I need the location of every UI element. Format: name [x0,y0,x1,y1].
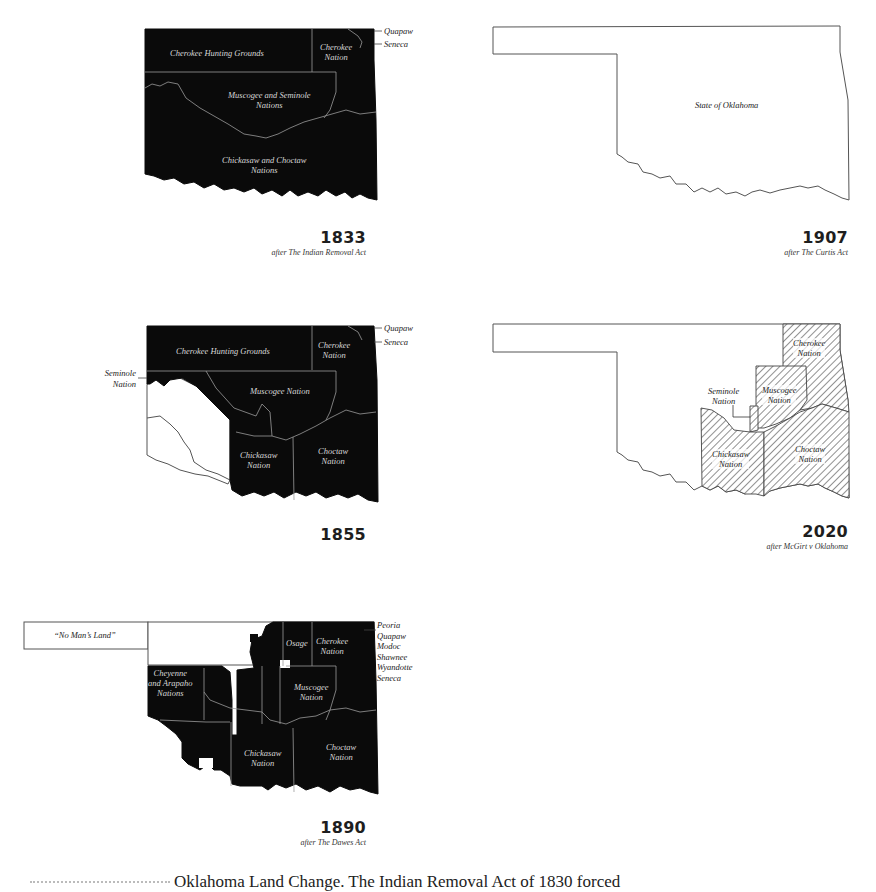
side-label-wyandotte: Wyandotte [377,662,413,673]
label-muscogee-nation: Muscogee Nation [294,682,328,702]
label-line: Cherokee [793,338,825,348]
label-seminole-nation: Seminole Nation [708,386,739,406]
label-line: Nation [708,396,739,406]
side-label-modoc: Modoc [377,641,413,652]
label-line: Nation [795,454,825,464]
label-line: Chickasaw [244,748,281,758]
label-chickasaw-nation: Chickasaw Nation [244,748,281,768]
label-line: Choctaw [326,742,356,752]
map-1890 [0,0,440,850]
label-cherokee-nation: Cherokee Nation [316,636,348,656]
label-line: Nation [712,459,749,469]
label-line: Seminole [708,386,739,396]
label-line: Chickasaw [712,449,749,459]
label-line: Muscogee [294,682,328,692]
side-label-peoria: Peoria [377,620,413,631]
caption-text: Oklahoma Land Change. The Indian Removal… [174,872,620,891]
side-label-seneca: Seneca [377,673,413,684]
caption-figure-number-placeholder [30,881,170,885]
label-choctaw-nation: Choctaw Nation [326,742,356,762]
label-osage: Osage [286,638,308,648]
label-no-mans-land: “No Man’s Land” [54,630,116,640]
subtitle-1890: after The Dawes Act [246,838,366,847]
label-line: Muscogee [762,385,796,395]
subtitle-2020: after McGirt v Oklahoma [728,542,848,551]
label-line: Nations [148,688,192,698]
side-label-quapaw: Quapaw [377,631,413,642]
map-panel-1890: “No Man’s Land” Osage Cherokee Nation Ch… [0,0,440,850]
label-line: Cheyenne [148,668,192,678]
figure-caption: Oklahoma Land Change. The Indian Removal… [30,872,876,892]
label-line: Nation [326,752,356,762]
label-cherokee-nation: Cherokee Nation [793,338,825,358]
label-line: Nation [294,692,328,702]
label-line: Cherokee [316,636,348,646]
label-line: Choctaw [795,444,825,454]
label-line: Nation [793,348,825,358]
label-choctaw-nation: Choctaw Nation [795,444,825,464]
label-line: Nation [762,395,796,405]
label-line: Nation [316,646,348,656]
label-line: Nation [244,758,281,768]
year-1890: 1890 [300,818,366,837]
label-cheyenne-arapaho: Cheyenne and Arapaho Nations [148,668,192,698]
year-2020: 2020 [780,522,848,541]
label-muscogee-nation: Muscogee Nation [762,385,796,405]
side-label-shawnee: Shawnee [377,652,413,663]
label-chickasaw-nation: Chickasaw Nation [712,449,749,469]
side-labels-small-tribes: Peoria Quapaw Modoc Shawnee Wyandotte Se… [377,620,413,683]
label-line: and Arapaho [148,678,192,688]
